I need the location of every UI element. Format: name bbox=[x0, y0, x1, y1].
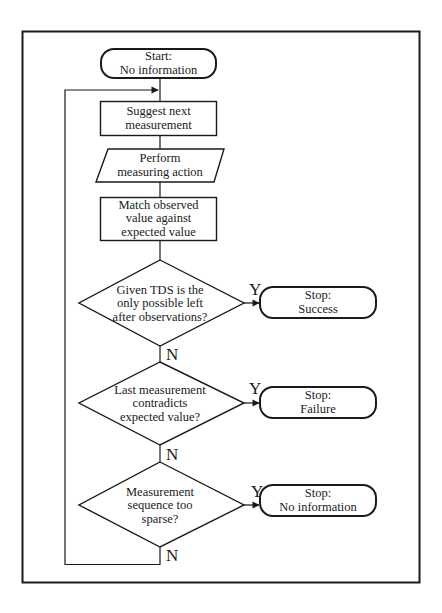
decision2-yes-label: Y bbox=[249, 380, 261, 397]
decision3-diamond bbox=[79, 462, 244, 547]
decision3-yes-label: Y bbox=[251, 483, 263, 500]
start-terminal bbox=[101, 49, 216, 78]
match-value-box bbox=[101, 198, 217, 241]
decision2-diamond bbox=[79, 362, 244, 445]
stop-success-terminal bbox=[260, 287, 376, 318]
decision1-yes-label: Y bbox=[249, 281, 261, 298]
decision2-no-label: N bbox=[166, 446, 178, 463]
stop-failure-terminal bbox=[260, 387, 376, 418]
decision3-no-label: N bbox=[166, 547, 178, 564]
suggest-measurement-box bbox=[101, 102, 217, 136]
decision1-diamond bbox=[79, 260, 244, 346]
perform-action-parallelogram bbox=[96, 149, 224, 182]
decision1-no-label: N bbox=[166, 346, 178, 363]
flowchart-canvas bbox=[0, 0, 442, 613]
stop-noinfo-terminal bbox=[260, 485, 376, 516]
